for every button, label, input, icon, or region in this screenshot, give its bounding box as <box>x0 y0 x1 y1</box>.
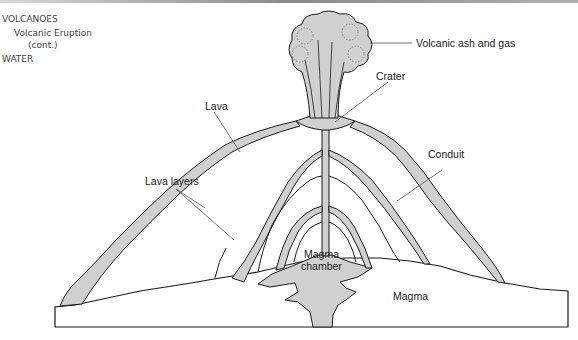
label-magma: Magma <box>393 290 428 302</box>
main-conduit <box>322 128 329 256</box>
label-crater: Crater <box>376 70 406 82</box>
label-chamber-2: chamber <box>301 260 342 272</box>
ash-plume <box>289 11 372 118</box>
label-ash: Volcanic ash and gas <box>416 37 515 49</box>
label-lava-layers: Lava layers <box>145 175 199 187</box>
label-lava: Lava <box>205 100 228 112</box>
label-conduit: Conduit <box>428 148 464 160</box>
leader-lava-layers-1 <box>176 189 205 208</box>
leader-lava-layers-2 <box>176 189 234 240</box>
volcano-diagram: Volcanic ash and gas Crater Lava Lava la… <box>0 0 578 340</box>
label-chamber-1: Magma <box>304 248 339 260</box>
left-side-line <box>215 248 226 278</box>
leader-crater <box>335 82 388 122</box>
